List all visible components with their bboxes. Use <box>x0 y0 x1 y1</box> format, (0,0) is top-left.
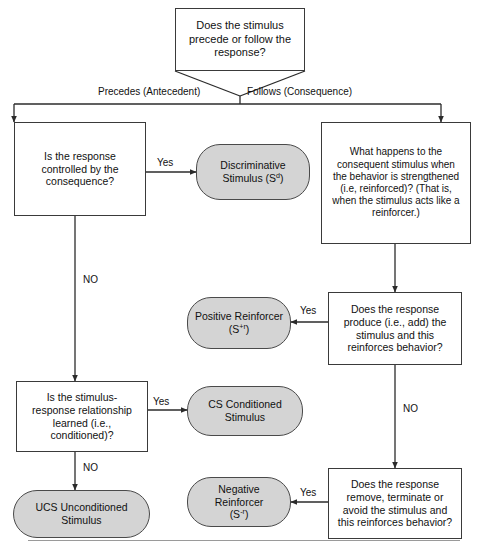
node-negative-reinforcer: Negative Reinforcer(S-r) <box>187 477 291 527</box>
node-text: Positive Reinforcer(S+r) <box>190 310 288 336</box>
node-text: Is the response controlled by the conseq… <box>36 150 123 188</box>
node-does-stimulus-precede: Does the stimulus precede or follow the … <box>175 8 305 71</box>
node-what-happens-to-consequent-stimulus: What happens to the consequent stimulus … <box>321 122 471 244</box>
edge-label-yes-cs: Yes <box>153 396 169 407</box>
node-text: Does the response remove, terminate or a… <box>333 478 457 529</box>
flowchart-canvas: Does the stimulus precede or follow the … <box>0 0 478 556</box>
node-does-response-produce: Does the response produce (i.e., add) th… <box>328 292 462 365</box>
edge-label-no-controlled: NO <box>83 274 98 285</box>
edge-label-follows: Follows (Consequence) <box>247 86 352 97</box>
edge-label-no-produce: NO <box>403 403 418 414</box>
node-cs-conditioned-stimulus: CS ConditionedStimulus <box>187 386 303 436</box>
node-positive-reinforcer: Positive Reinforcer(S+r) <box>187 297 291 349</box>
edge-label-yes-positive: Yes <box>300 305 316 316</box>
node-text: DiscriminativeStimulus (Sd) <box>215 159 290 185</box>
node-text: Does the response produce (i.e., add) th… <box>339 303 452 354</box>
node-ucs-unconditioned-stimulus: UCS UnconditionedStimulus <box>13 490 150 538</box>
node-text: What happens to the consequent stimulus … <box>327 146 464 219</box>
node-text: Is the stimulus- response relationship l… <box>27 391 137 442</box>
node-text: CS ConditionedStimulus <box>203 398 287 424</box>
node-does-response-remove: Does the response remove, terminate or a… <box>328 468 462 539</box>
edge-label-yes-discriminative: Yes <box>157 157 173 168</box>
node-text: Negative Reinforcer(S-r) <box>188 483 290 521</box>
edge-label-precedes: Precedes (Antecedent) <box>98 86 200 97</box>
node-discriminative-stimulus: DiscriminativeStimulus (Sd) <box>196 144 310 200</box>
node-is-response-controlled: Is the response controlled by the conseq… <box>14 122 146 216</box>
edge-label-yes-negative: Yes <box>300 487 316 498</box>
footer-divider <box>28 540 460 541</box>
node-is-stimulus-response-learned: Is the stimulus- response relationship l… <box>16 381 148 452</box>
node-text: Does the stimulus precede or follow the … <box>184 19 296 59</box>
edge-label-no-learned: NO <box>83 462 98 473</box>
node-text: UCS UnconditionedStimulus <box>30 501 132 527</box>
